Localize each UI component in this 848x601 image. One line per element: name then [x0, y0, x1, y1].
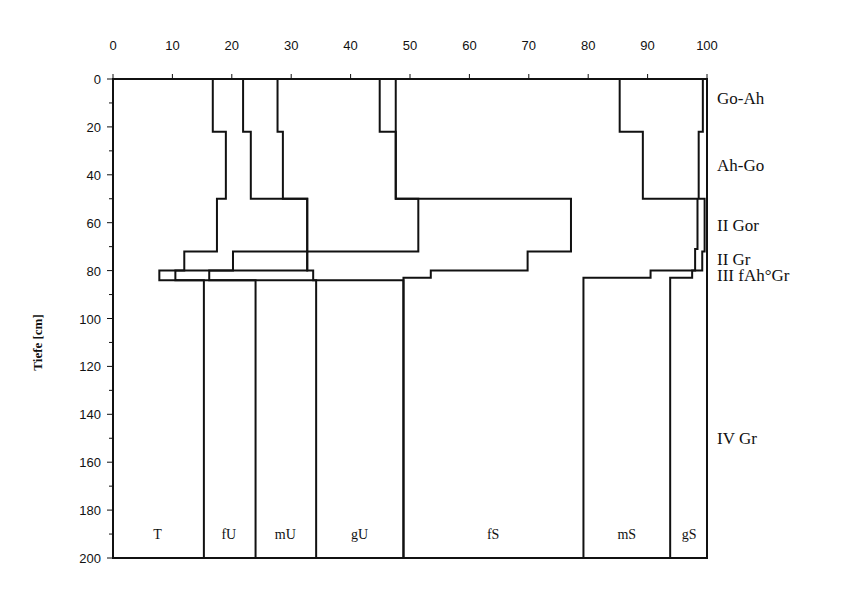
y-tick-label: 120 — [79, 359, 101, 374]
horizon-label: II Gor — [717, 216, 759, 235]
y-tick-label: 0 — [94, 72, 101, 87]
fraction-label-t: T — [153, 527, 162, 542]
x-tick-label: 30 — [284, 38, 298, 53]
x-tick-label: 20 — [225, 38, 239, 53]
x-tick-label: 40 — [343, 38, 357, 53]
boundary-t — [159, 79, 226, 558]
horizon-label: Ah-Go — [717, 156, 764, 175]
plot-frame — [113, 79, 707, 558]
y-tick-label: 160 — [79, 455, 101, 470]
fraction-label-gu: gU — [351, 527, 368, 542]
fraction-label-fu: fU — [221, 527, 236, 542]
horizon-label: IV Gr — [717, 429, 757, 448]
x-tick-label: 0 — [109, 38, 116, 53]
fraction-label-fs: fS — [487, 527, 499, 542]
boundary-gs — [670, 79, 704, 558]
x-tick-label: 100 — [696, 38, 718, 53]
x-tick-label: 60 — [462, 38, 476, 53]
y-tick-label: 180 — [79, 503, 101, 518]
y-tick-label: 40 — [87, 168, 101, 183]
x-tick-label: 50 — [403, 38, 417, 53]
boundary-ms — [583, 79, 697, 558]
y-tick-label: 60 — [87, 216, 101, 231]
x-tick-label: 80 — [581, 38, 595, 53]
fraction-label-gs: gS — [682, 527, 697, 542]
y-tick-label: 140 — [79, 407, 101, 422]
boundary-gu — [307, 79, 418, 558]
x-tick-label: 70 — [522, 38, 536, 53]
horizon-label: Go-Ah — [717, 89, 765, 108]
chart-canvas: 0102030405060708090100 02040608010012014… — [0, 0, 848, 601]
horizon-label: III fAh°Gr — [717, 266, 790, 285]
x-tick-label: 10 — [165, 38, 179, 53]
y-tick-label: 200 — [79, 551, 101, 566]
boundary-fs — [396, 79, 571, 558]
fraction-label-mu: mU — [275, 527, 296, 542]
y-tick-label: 100 — [79, 312, 101, 327]
fraction-boundary-lines — [159, 79, 704, 558]
grain-size-depth-chart: 0102030405060708090100 02040608010012014… — [0, 0, 848, 601]
y-tick-label: 80 — [87, 264, 101, 279]
horizon-labels: Go-AhAh-GoII GorII GrIII fAh°GrIV Gr — [717, 89, 790, 448]
y-axis-title: Tiefe [cm] — [30, 314, 45, 370]
y-tick-label: 20 — [87, 120, 101, 135]
fraction-label-ms: mS — [617, 527, 636, 542]
boundary-fu — [175, 79, 307, 558]
fraction-labels: TfUmUgUfSmSgS — [153, 527, 696, 542]
y-axis-left: 020406080100120140160180200 — [79, 72, 113, 566]
x-tick-label: 90 — [640, 38, 654, 53]
x-axis-top: 0102030405060708090100 — [109, 38, 717, 79]
